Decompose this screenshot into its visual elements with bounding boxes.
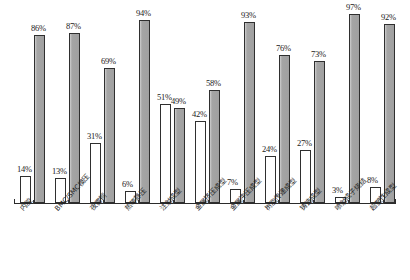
bar-chart: 14% 86% 13% 87% 31% 69% 6% 94% 5 xyxy=(0,0,410,280)
bar-value-hollow: 24% xyxy=(262,145,277,154)
bar-value-filled: 87% xyxy=(66,22,81,31)
bar-value-hollow: 8% xyxy=(367,176,378,185)
bar-filled xyxy=(104,68,115,203)
bar-value-filled: 94% xyxy=(136,9,151,18)
x-axis-right-cap xyxy=(395,199,396,204)
bar-filled xyxy=(34,35,45,203)
bar-filled xyxy=(139,20,150,203)
bar-filled xyxy=(349,14,360,203)
bar-hollow xyxy=(160,104,171,203)
bar-value-filled: 76% xyxy=(276,44,291,53)
category-label-row: 内腔 BMC/SMC模压 夜雾铜 热等静压 注射成型 金属挤压成型 金属冲压成型… xyxy=(0,206,410,280)
plot-area: 14% 86% 13% 87% 31% 69% 6% 94% 5 xyxy=(14,8,396,203)
bar-hollow xyxy=(195,121,206,203)
bar-filled xyxy=(384,24,395,203)
bar-value-filled: 97% xyxy=(346,3,361,12)
bar-value-hollow: 3% xyxy=(332,186,343,195)
bar-value-hollow: 27% xyxy=(297,139,312,148)
bar-value-filled: 92% xyxy=(381,13,396,22)
bar-value-hollow: 7% xyxy=(227,178,238,187)
bar-value-hollow: 6% xyxy=(122,180,133,189)
x-axis-left-cap xyxy=(14,199,15,204)
bar-value-hollow: 14% xyxy=(17,165,32,174)
bar-filled xyxy=(314,61,325,203)
bar-value-filled: 93% xyxy=(241,11,256,20)
bar-value-filled: 58% xyxy=(206,79,221,88)
bar-value-filled: 73% xyxy=(311,50,326,59)
bar-value-hollow: 51% xyxy=(157,93,172,102)
bar-value-filled: 69% xyxy=(101,57,116,66)
bar-value-hollow: 42% xyxy=(192,110,207,119)
bar-value-filled: 86% xyxy=(31,24,46,33)
bar-value-hollow: 13% xyxy=(52,167,67,176)
bar-value-hollow: 31% xyxy=(87,132,102,141)
bar-value-filled: 49% xyxy=(171,97,186,106)
